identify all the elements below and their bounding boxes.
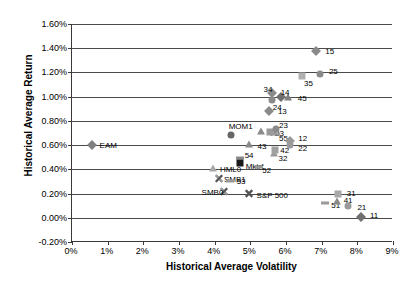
x-tick-label: 3% (171, 246, 184, 256)
data-point-label: EAM (100, 141, 117, 150)
x-tick-label: 7% (314, 246, 327, 256)
x-tick-label: 0% (64, 246, 77, 256)
data-point-label: HML0 (220, 165, 241, 174)
gridline (72, 194, 392, 195)
data-point-marker (209, 165, 217, 172)
data-point-label: 13 (278, 107, 287, 116)
data-point-marker (311, 46, 321, 56)
y-axis-tick-labels: 1.60%1.40%1.20%1.00%0.80%0.60%0.40%0.20%… (0, 0, 67, 285)
gridline (72, 24, 392, 25)
data-point-label: SMB0 (202, 188, 224, 197)
data-point-label: 35 (304, 79, 313, 88)
y-tick-mark (68, 194, 72, 195)
data-point-marker (214, 175, 223, 184)
data-point-marker (333, 198, 341, 205)
data-point-label: 23 (279, 121, 288, 130)
data-point-label: 34 (263, 85, 272, 94)
data-point-label: 22 (298, 144, 307, 153)
y-tick-label: 0.40% (41, 164, 67, 174)
data-point-marker (345, 202, 352, 209)
x-tick-label: 6% (278, 246, 291, 256)
x-tick-label: 1% (100, 246, 113, 256)
y-tick-label: 1.20% (41, 67, 67, 77)
y-tick-label: 0.80% (41, 116, 67, 126)
data-point-marker (272, 146, 279, 153)
y-tick-label: 0.20% (41, 189, 67, 199)
data-point-label: 52 (262, 165, 271, 174)
data-point-marker (226, 180, 234, 183)
x-axis-tick-labels: 0%1%2%3%4%5%6%7%8%9% (71, 242, 392, 258)
y-tick-mark (68, 145, 72, 146)
x-tick-label: 8% (350, 246, 363, 256)
data-point-marker (87, 140, 97, 150)
data-point-label: S&P 500 (257, 190, 288, 199)
x-axis-title: Historical Average Volatility (71, 261, 392, 272)
y-tick-mark (68, 218, 72, 219)
y-tick-mark (68, 72, 72, 73)
data-point-label: MOM1 (229, 122, 253, 131)
data-point-label: 21 (357, 202, 366, 211)
x-tick-label: 5% (243, 246, 256, 256)
y-tick-label: 1.00% (41, 92, 67, 102)
gridline (72, 145, 392, 146)
data-point-marker (316, 70, 323, 77)
data-point-marker (356, 212, 366, 222)
y-tick-mark (68, 121, 72, 122)
gridline (72, 218, 392, 219)
data-point-marker (245, 141, 253, 148)
data-point-label: 54 (245, 151, 254, 160)
data-point-label: 11 (370, 210, 378, 219)
y-tick-mark (68, 48, 72, 49)
data-point-label: 45 (298, 93, 307, 102)
x-tick-label: 2% (136, 246, 149, 256)
y-tick-mark (68, 97, 72, 98)
data-point-label: 14 (281, 87, 290, 96)
data-point-marker (257, 127, 265, 134)
x-tick-mark (393, 241, 394, 245)
y-tick-label: 0.60% (41, 140, 67, 150)
y-tick-label: -0.20% (38, 237, 67, 247)
y-tick-label: 1.60% (41, 19, 67, 29)
y-tick-label: 1.40% (41, 43, 67, 53)
scatter-chart: Historical Average Return 1.60%1.40%1.20… (0, 0, 416, 285)
y-tick-label: 0.00% (41, 213, 67, 223)
data-point-marker (321, 202, 329, 205)
y-tick-mark (68, 169, 72, 170)
plot-area: EAM1525354514243413MOM144332355122243324… (71, 24, 392, 242)
data-point-label: 43 (258, 142, 267, 151)
gridline (72, 48, 392, 49)
data-point-label: 42 (280, 145, 289, 154)
data-point-marker (244, 189, 253, 198)
data-point-marker (227, 132, 234, 139)
x-tick-label: 9% (385, 246, 398, 256)
data-point-label: 15 (325, 46, 334, 55)
data-point-label: 12 (298, 134, 307, 143)
data-point-marker (334, 190, 341, 197)
x-tick-label: 4% (207, 246, 220, 256)
data-point-label: 53 (237, 177, 246, 186)
gridline (72, 97, 392, 98)
gridline (72, 72, 392, 73)
data-point-label: 25 (329, 66, 338, 75)
y-tick-mark (68, 24, 72, 25)
